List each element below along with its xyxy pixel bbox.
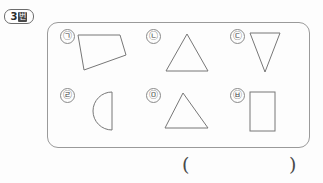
question-number-badge: 3 번 — [4, 9, 34, 24]
shape-label-3: ㉢ — [230, 29, 245, 44]
rectangle-shape — [244, 88, 300, 134]
shape-cell-4: ㉣ — [54, 84, 140, 144]
shape-label-5: ㉤ — [146, 88, 161, 103]
question-number-unit: 번 — [18, 12, 27, 22]
quadrilateral-shape — [74, 29, 130, 75]
shape-label-6: ㉥ — [230, 88, 245, 103]
shape-cell-2: ㉡ — [140, 25, 226, 85]
semicircle-shape — [74, 88, 130, 134]
shape-cell-6: ㉥ — [224, 84, 310, 144]
inverted-triangle-shape — [244, 29, 300, 75]
question-number: 3 — [11, 12, 18, 22]
answer-blank[interactable]: ( ) — [176, 153, 306, 179]
shape-cell-3: ㉢ — [224, 25, 310, 85]
answer-open-paren: ( — [182, 153, 189, 175]
shape-cell-1: ㉠ — [54, 25, 140, 85]
triangle-shape — [160, 29, 216, 75]
shape-label-1: ㉠ — [60, 29, 75, 44]
shape-collection-box: ㉠ ㉡ ㉢ — [47, 22, 310, 148]
shape-label-4: ㉣ — [60, 88, 75, 103]
scalene-triangle-shape — [160, 88, 216, 134]
answer-close-paren: ) — [289, 153, 296, 175]
worksheet-page: 3 번 ㉠ ㉡ ㉢ — [0, 0, 323, 183]
shape-label-2: ㉡ — [146, 29, 161, 44]
shape-cell-5: ㉤ — [140, 84, 226, 144]
